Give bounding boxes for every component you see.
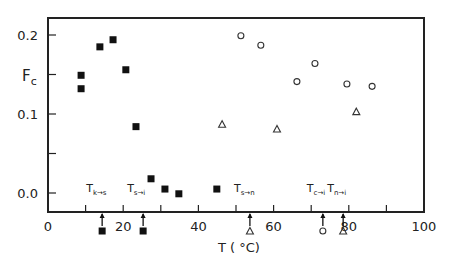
arrow-head-icon [100, 213, 105, 218]
transition-label: Ts→n [233, 182, 255, 197]
arrow-head-icon [247, 213, 252, 218]
y-tick-label: 0.2 [17, 28, 38, 43]
filled-square-marker [161, 186, 168, 193]
filled-square-marker [132, 123, 139, 130]
x-tick-label: 20 [115, 219, 132, 234]
x-axis-label: T ( °C) [217, 240, 260, 255]
open-triangle-marker [273, 126, 280, 132]
filled-square-marker [213, 186, 220, 193]
x-tick-label: 100 [412, 219, 437, 234]
y-tick-label: 0.0 [17, 186, 38, 201]
arrow-head-icon [141, 213, 146, 218]
open-circle-marker [312, 60, 318, 66]
x-tick-label: 0 [44, 219, 52, 234]
x-tick-label: 40 [190, 219, 207, 234]
arrow-head-icon [341, 213, 346, 218]
open-circle-marker [369, 83, 375, 89]
filled-square-marker [78, 72, 85, 79]
open-circle-marker [258, 42, 264, 48]
filled-square-marker [78, 85, 85, 92]
filled-square-marker [122, 66, 129, 73]
transition-label: Tn→i [326, 182, 346, 197]
y-axis-label: Fc [22, 67, 37, 88]
x-tick-label: 60 [265, 219, 282, 234]
y-tick-label: 0.1 [17, 107, 38, 122]
transition-label: Ts→i [126, 182, 145, 197]
open-circle-marker [344, 81, 350, 87]
data-points [78, 33, 376, 198]
scatter-chart: 0204060801000.00.10.2 Tk→sTs→iTs→nTc→iTn… [0, 0, 455, 264]
axis-ticks [48, 35, 386, 212]
filled-square-marker [99, 228, 106, 235]
filled-square-marker [110, 36, 117, 43]
open-triangle-marker [246, 228, 253, 235]
open-triangle-marker [219, 121, 226, 128]
tick-labels: 0204060801000.00.10.2 [17, 28, 436, 234]
filled-square-marker [175, 190, 182, 197]
filled-square-marker [148, 175, 155, 182]
open-circle-marker [238, 33, 244, 39]
open-circle-marker [320, 228, 326, 234]
filled-square-marker [140, 228, 147, 235]
transition-label: Tk→s [85, 182, 107, 197]
filled-square-marker [96, 43, 103, 50]
open-circle-marker [294, 79, 300, 85]
open-triangle-marker [353, 108, 360, 115]
arrow-head-icon [320, 213, 325, 218]
transition-label: Tc→i [306, 182, 325, 197]
